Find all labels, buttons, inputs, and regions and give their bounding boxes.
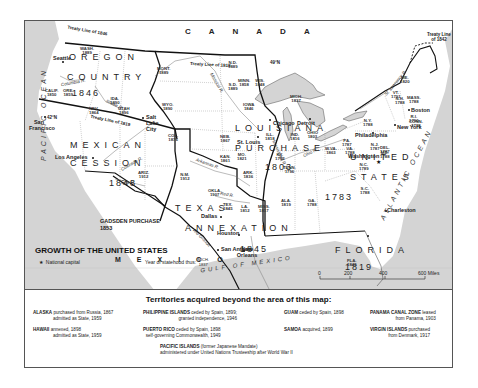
- city-charleston: Charleston: [387, 208, 416, 214]
- state-label: FLA.1845: [347, 259, 357, 268]
- state-label: N.Y.1788: [363, 119, 373, 128]
- city-san-antonio: San Antonio: [221, 247, 253, 253]
- state-label: IND.1816: [290, 133, 300, 142]
- map-frame: ★ CANADA MEXICO PACIFIC OCEAN ATLANTIC O…: [24, 20, 453, 290]
- territory-hawaii: HAWAII annexed, 1898admitted as State, 1…: [33, 327, 102, 338]
- city-salt-lake-city: Salt Lake City: [146, 114, 170, 132]
- state-label: N.J.1787: [370, 143, 380, 152]
- state-label: ME.1820: [400, 76, 410, 85]
- footer-title: Territories acquired beyond the area of …: [25, 295, 452, 304]
- territory-philippines: PHILIPPINE ISLANDS ceded by Spain, 1899;…: [143, 310, 237, 321]
- treaty-1842-label: Treaty Line of 1842: [427, 33, 451, 42]
- state-label: GA.1788: [307, 199, 317, 208]
- mexico-border: [85, 171, 165, 206]
- state-label: MISS.1817: [258, 205, 270, 214]
- state-label: CALIF.1850: [45, 89, 58, 98]
- region-oregon-year: 1846: [72, 89, 100, 98]
- state-label: MICH.1837: [290, 95, 302, 104]
- state-label: COL.1876: [168, 134, 178, 143]
- city-seattle: Seattle: [53, 56, 71, 62]
- territory-puerto-rico: PUERTO RICO ceded by Spain, 1898self-gov…: [143, 327, 221, 338]
- capital-star-icon: ★: [39, 259, 43, 265]
- city-philadelphia: Philadelphia: [355, 133, 387, 139]
- territories-footer: Territories acquired beyond the area of …: [24, 290, 453, 368]
- city-houston: Houston: [217, 231, 239, 237]
- canada-label: CANADA: [185, 28, 328, 36]
- state-label: IDA.1890: [110, 97, 120, 106]
- parallel-49n-label: 49°N: [270, 61, 280, 66]
- region-mexican: MEXICAN: [70, 141, 146, 150]
- state-label: MONT.1889: [157, 67, 170, 76]
- state-label: PA.1787: [342, 139, 352, 148]
- region-states: STATES: [350, 173, 414, 182]
- state-label: S.C.1788: [360, 187, 370, 196]
- state-label: WIS.1848: [255, 79, 265, 88]
- city-detroit: Detroit: [297, 121, 315, 127]
- city-dallas: Dallas: [201, 214, 217, 220]
- city-san-francisco: San Francisco: [29, 119, 49, 131]
- region-texas: TEXAS: [175, 204, 230, 213]
- state-label: ILL.1818: [265, 133, 275, 142]
- state-label: KAN.1861: [220, 155, 231, 164]
- state-label: TEX.1845: [223, 203, 233, 212]
- state-label: LA.1812: [240, 205, 250, 214]
- state-label: UTAH1896: [118, 107, 130, 116]
- state-label: NEB.1867: [220, 135, 230, 144]
- state-label: ARIZ.1912: [138, 171, 149, 180]
- state-label: N.D.1889: [228, 61, 238, 70]
- state-label: TENN.1796: [283, 166, 296, 175]
- city-boston: Boston: [411, 108, 430, 114]
- city-chicago: Chicago: [273, 121, 295, 127]
- territory-virgin-islands: VIRGIN ISLANDS purchasedfrom Denmark, 19…: [370, 327, 430, 338]
- state-label: S.D.1889: [228, 83, 238, 92]
- gila-river-label: Gila R.: [121, 181, 135, 186]
- state-label: OHIO1803: [307, 131, 318, 140]
- legend-statehood: Year of statehood thus: MICH.1837: [145, 258, 209, 267]
- state-label: OKLA.1907: [208, 189, 221, 198]
- territory-pacific-islands: PACIFIC ISLANDS (former Japanese Mandate…: [160, 344, 293, 355]
- territory-guam: GUAM ceded by Spain, 1898: [284, 310, 344, 316]
- state-label: ARK.1836: [243, 171, 254, 180]
- scale-tick-400: 400: [379, 271, 387, 276]
- city-los-angeles: Los Angeles: [55, 155, 88, 161]
- state-label: MO.1821: [237, 153, 247, 162]
- scale-tick-0: 0: [318, 271, 321, 276]
- pacific-ocean-label: PACIFIC OCEAN: [40, 68, 47, 161]
- state-label: KY.1792: [275, 153, 285, 162]
- state-label: ORE.1859: [63, 89, 74, 98]
- state-label: N.C.1789: [359, 163, 369, 172]
- region-gadsden: GADSDEN PURCHASE 1853: [100, 218, 160, 232]
- territory-alaska: ALASKA purchased from Russia, 1867admitt…: [33, 310, 113, 321]
- state-label: N.H.1788: [395, 97, 405, 106]
- state-label: IOWA1846: [243, 103, 254, 112]
- territory-panama-canal-zone: PANAMA CANAL ZONE leasedfrom Panama, 190…: [370, 310, 436, 321]
- state-label: WASH.1889: [80, 47, 94, 56]
- state-label: W.VA.1863: [325, 147, 337, 156]
- state-label: MINN.1858: [238, 79, 250, 88]
- scale-tick-200: 200: [344, 271, 352, 276]
- region-states-year: 1783: [325, 193, 353, 202]
- region-florida: FLORIDA: [335, 246, 409, 255]
- state-label: N.M.1912: [180, 173, 190, 182]
- map-title: GROWTH OF THE UNITED STATES: [35, 246, 168, 255]
- state-label: WYO.1890: [162, 103, 173, 112]
- legend-national-capital: ★ National capital: [39, 259, 80, 265]
- state-label: MD.1788: [380, 151, 390, 160]
- state-label: MASS.1788: [407, 96, 421, 105]
- state-label: ALA.1819: [281, 199, 291, 208]
- state-label: VA.1788: [345, 147, 355, 156]
- state-label: NEV.1864: [89, 107, 99, 116]
- city-st-louis: St. Louis: [237, 140, 260, 146]
- territory-samoa: SAMOA acquired, 1899: [284, 327, 333, 333]
- scale-tick-600: 600 Miles: [418, 271, 439, 276]
- state-label: CONN.1788: [409, 120, 423, 129]
